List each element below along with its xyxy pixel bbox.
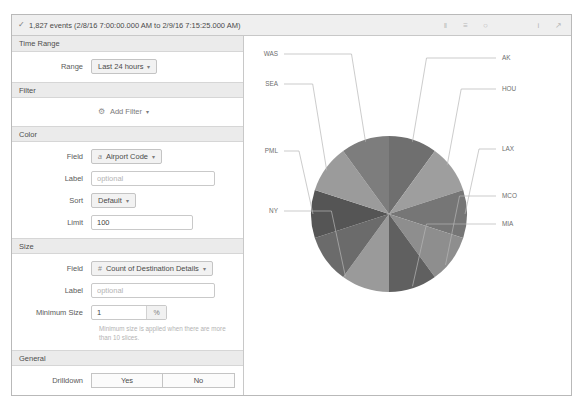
settings-sidebar: Time Range Range Last 24 hours ▾ Filter [12, 36, 244, 395]
pie-slice-label: NY [269, 207, 279, 214]
check-icon: ✓ [18, 21, 25, 29]
label-leader-line [447, 89, 496, 165]
clock-icon[interactable]: ○ [481, 21, 490, 30]
row-add-filter: ⚙ Add Filter ▾ [12, 105, 235, 118]
minimum-size-label: Minimum Size [12, 308, 91, 317]
minimum-size-input[interactable] [92, 306, 146, 319]
label-leader-line [413, 58, 497, 142]
row-color-label: Label [12, 171, 235, 186]
color-field-label: Field [12, 152, 91, 161]
section-header-filter[interactable]: Filter [12, 82, 243, 98]
section-body-general: Drilldown Yes No [12, 366, 243, 395]
string-type-icon: a [98, 153, 102, 160]
section-header-size[interactable]: Size [12, 238, 243, 254]
section-header-time-range[interactable]: Time Range [12, 36, 243, 52]
color-sort-dropdown[interactable]: Default ▾ [91, 193, 136, 208]
chevron-down-icon: ▾ [152, 154, 155, 160]
color-label-label: Label [12, 174, 91, 183]
section-body-size: Field # Count of Destination Details ▾ L… [12, 254, 243, 350]
list-icon[interactable]: ≡ [461, 21, 470, 30]
row-size-label: Label [12, 283, 235, 298]
events-count-text: 1,827 events (2/8/16 7:00:00.000 AM to 2… [29, 21, 240, 30]
pie-slice-label: MIA [502, 220, 514, 227]
pie-slice-label: LAX [502, 145, 515, 152]
drilldown-yes-button[interactable]: Yes [91, 373, 163, 388]
drilldown-no-button[interactable]: No [163, 373, 235, 388]
color-field-value: Airport Code [106, 152, 148, 161]
drilldown-label: Drilldown [12, 376, 91, 385]
gear-icon: ⚙ [98, 108, 106, 116]
info-icon[interactable]: i [534, 21, 543, 30]
color-limit-input[interactable] [91, 215, 193, 230]
add-filter-button[interactable]: ⚙ Add Filter ▾ [94, 105, 153, 118]
minimum-size-hint: Minimum size is applied when there are m… [99, 324, 231, 342]
chart-canvas: AKHOULAXMCOMIANYPMLSEAWAS [244, 36, 571, 395]
section-title-time-range: Time Range [19, 39, 60, 48]
section-title-size: Size [19, 242, 34, 251]
label-leader-line [284, 84, 327, 170]
section-body-color: Field a Airport Code ▾ Label Sort [12, 142, 243, 238]
pie-slice-label: WAS [264, 50, 278, 57]
size-label-input[interactable] [91, 283, 215, 298]
pie-slice-label: AK [502, 54, 511, 61]
number-type-icon: # [98, 265, 102, 272]
size-field-value: Count of Destination Details [106, 264, 199, 273]
chevron-down-icon: ▾ [126, 198, 129, 204]
export-icon[interactable]: ↗ [554, 21, 563, 30]
pie-slice-label: SEA [265, 80, 279, 87]
row-color-limit: Limit [12, 215, 235, 230]
row-drilldown: Drilldown Yes No [12, 373, 235, 388]
add-filter-label: Add Filter [110, 107, 142, 116]
range-dropdown[interactable]: Last 24 hours ▾ [91, 59, 157, 74]
color-limit-label: Limit [12, 218, 91, 227]
visualization-window: ✓ 1,827 events (2/8/16 7:00:00.000 AM to… [11, 14, 572, 396]
percent-unit-label: % [146, 306, 166, 319]
pie-chart-container: AKHOULAXMCOMIANYPMLSEAWAS [244, 36, 571, 395]
color-label-input[interactable] [91, 171, 215, 186]
section-header-color[interactable]: Color [12, 126, 243, 142]
status-bar: ✓ 1,827 events (2/8/16 7:00:00.000 AM to… [12, 15, 571, 36]
row-minimum-size: Minimum Size % [12, 305, 235, 320]
section-header-general[interactable]: General [12, 350, 243, 366]
color-sort-value: Default [98, 196, 122, 205]
status-bar-tools: ‖ ≡ ○ i ↗ [441, 21, 565, 30]
pie-slice-label: MCO [502, 192, 517, 199]
pie-slice-label: PML [265, 147, 279, 154]
section-title-general: General [19, 354, 46, 363]
chevron-down-icon: ▾ [203, 266, 206, 272]
section-body-time-range: Range Last 24 hours ▾ [12, 52, 243, 82]
app-root: ✓ 1,827 events (2/8/16 7:00:00.000 AM to… [0, 0, 585, 409]
size-field-dropdown[interactable]: # Count of Destination Details ▾ [91, 261, 213, 276]
size-label-label: Label [12, 286, 91, 295]
color-field-dropdown[interactable]: a Airport Code ▾ [91, 149, 162, 164]
columns-icon[interactable]: ‖ [441, 21, 450, 30]
row-color-field: Field a Airport Code ▾ [12, 149, 235, 164]
label-leader-line [284, 151, 313, 214]
chevron-down-icon: ▾ [146, 109, 149, 115]
section-body-filter: ⚙ Add Filter ▾ [12, 98, 243, 126]
pie-chart-svg[interactable]: AKHOULAXMCOMIANYPMLSEAWAS [244, 36, 572, 395]
pie-slice-label: HOU [502, 85, 517, 92]
section-title-color: Color [19, 130, 37, 139]
status-bar-left: ✓ 1,827 events (2/8/16 7:00:00.000 AM to… [18, 21, 441, 30]
minimum-size-stepper[interactable]: % [91, 305, 167, 320]
row-size-field: Field # Count of Destination Details ▾ [12, 261, 235, 276]
label-leader-line [284, 54, 366, 142]
window-body: Time Range Range Last 24 hours ▾ Filter [12, 36, 571, 395]
drilldown-toggle: Yes No [91, 373, 235, 388]
label-leader-line [465, 149, 496, 214]
chevron-down-icon: ▾ [147, 64, 150, 70]
size-field-label: Field [12, 264, 91, 273]
color-sort-label: Sort [12, 196, 91, 205]
range-label: Range [12, 62, 91, 71]
row-color-sort: Sort Default ▾ [12, 193, 235, 208]
section-title-filter: Filter [19, 86, 36, 95]
row-range: Range Last 24 hours ▾ [12, 59, 235, 74]
range-dropdown-value: Last 24 hours [98, 62, 143, 71]
